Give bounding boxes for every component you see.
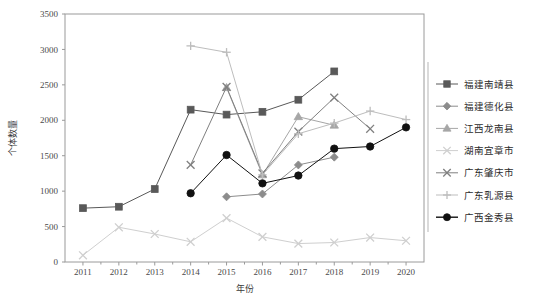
- marker-circle: [366, 143, 373, 150]
- legend-item-0[interactable]: 福建南靖县: [436, 79, 514, 90]
- legend-label: 湖南宜章市: [464, 145, 514, 156]
- x-tick-label: 2013: [146, 267, 165, 277]
- marker-diamond: [330, 153, 338, 161]
- marker-x-light: [223, 214, 231, 222]
- legend-label: 福建德化县: [464, 101, 514, 112]
- y-tick-label: 1500: [40, 151, 59, 161]
- marker-x-light: [79, 251, 87, 259]
- marker-diamond: [223, 193, 231, 201]
- marker-square: [295, 96, 302, 103]
- y-tick-label: 2000: [40, 115, 59, 125]
- marker-square: [259, 108, 266, 115]
- marker-plus: [402, 115, 410, 123]
- x-tick-label: 2014: [182, 267, 201, 277]
- marker-triangle: [294, 113, 302, 120]
- marker-circle: [295, 172, 302, 179]
- x-axis-title: 年份: [236, 283, 254, 294]
- marker-plus: [443, 191, 451, 199]
- marker-x-light: [151, 230, 159, 238]
- marker-circle: [402, 124, 409, 131]
- legend-item-2[interactable]: 江西龙南县: [436, 123, 514, 134]
- y-tick-label: 0: [54, 257, 59, 267]
- legend-label: 广东肇庆市: [464, 167, 514, 178]
- chart-legend: 福建南靖县福建德化县江西龙南县湖南宜章市广东肇庆市广东乳源县广西金秀县: [436, 79, 514, 223]
- axis-tickmarks: [62, 14, 406, 266]
- y-tick-label: 1000: [40, 186, 59, 196]
- marker-circle: [443, 214, 450, 221]
- series-0: [80, 68, 338, 212]
- marker-x-light: [187, 238, 195, 246]
- series-line: [227, 88, 335, 175]
- marker-x-dark: [366, 125, 374, 133]
- series-1: [223, 153, 339, 201]
- y-tick-label: 500: [45, 222, 59, 232]
- marker-x-dark: [330, 94, 338, 102]
- series-line: [83, 71, 334, 208]
- legend-item-3[interactable]: 湖南宜章市: [436, 145, 514, 156]
- marker-circle: [223, 151, 230, 158]
- marker-square: [187, 106, 194, 113]
- y-tick-label: 2500: [40, 80, 59, 90]
- legend-item-1[interactable]: 福建德化县: [436, 101, 514, 112]
- x-tick-label: 2017: [289, 267, 308, 277]
- marker-square: [151, 186, 158, 193]
- x-tick-label: 2020: [397, 267, 416, 277]
- x-tick-label: 2018: [325, 267, 344, 277]
- x-tick-label: 2012: [110, 267, 128, 277]
- y-tick-label: 3500: [40, 9, 59, 19]
- marker-plus: [366, 107, 374, 115]
- y-tick-label: 3000: [40, 45, 59, 55]
- x-tick-label: 2016: [253, 267, 272, 277]
- legend-label: 广东乳源县: [464, 190, 514, 201]
- series-line: [227, 157, 335, 197]
- marker-circle: [259, 180, 266, 187]
- marker-x-dark: [187, 161, 195, 169]
- marker-square: [331, 68, 338, 75]
- marker-square: [444, 81, 450, 87]
- legend-label: 福建南靖县: [464, 79, 514, 90]
- series-3: [79, 214, 410, 259]
- chart-figure: 0500100015002000250030003500 20112012201…: [0, 0, 536, 300]
- series-line: [83, 218, 406, 255]
- y-axis-title: 个体数量: [7, 120, 18, 156]
- marker-square: [80, 205, 87, 212]
- legend-item-6[interactable]: 广西金秀县: [436, 212, 514, 223]
- legend-label: 广西金秀县: [464, 212, 514, 223]
- plot-frame: [65, 14, 424, 262]
- legend-item-5[interactable]: 广东乳源县: [436, 190, 514, 201]
- series-4: [187, 83, 374, 177]
- marker-diamond: [443, 102, 451, 110]
- marker-plus: [222, 48, 230, 56]
- marker-plus: [186, 42, 194, 50]
- marker-square: [115, 203, 122, 210]
- legend-item-4[interactable]: 广东肇庆市: [436, 167, 514, 178]
- series-line: [191, 87, 371, 173]
- data-series-layer: [79, 42, 410, 259]
- marker-x-light: [259, 233, 267, 241]
- marker-circle: [331, 145, 338, 152]
- marker-square: [223, 111, 230, 118]
- legend-label: 江西龙南县: [464, 123, 514, 134]
- x-tick-label: 2019: [361, 267, 380, 277]
- y-axis-tick-labels: 0500100015002000250030003500: [40, 9, 59, 267]
- marker-x-light: [115, 223, 123, 231]
- series-5: [186, 42, 410, 179]
- x-tick-label: 2011: [74, 267, 92, 277]
- line-chart: 0500100015002000250030003500 20112012201…: [0, 0, 536, 300]
- x-tick-label: 2015: [218, 267, 237, 277]
- marker-triangle: [443, 124, 451, 131]
- marker-circle: [187, 190, 194, 197]
- x-axis-tick-labels: 2011201220132014201520162017201820192020: [74, 267, 415, 277]
